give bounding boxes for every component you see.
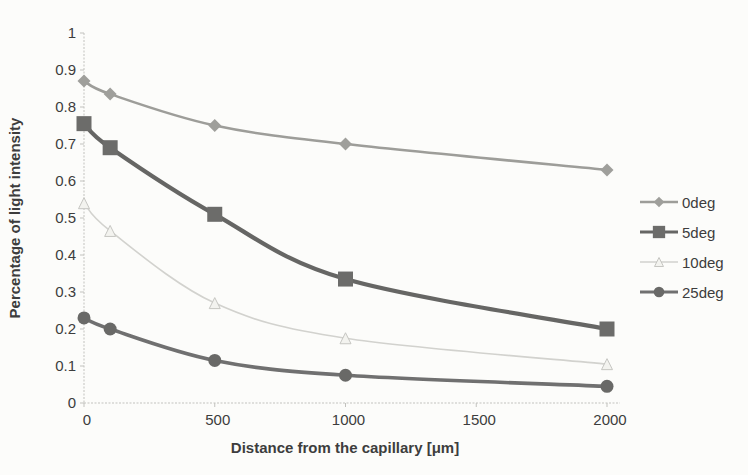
x-tick-label: 0 [83, 411, 91, 428]
square-marker [103, 140, 118, 155]
x-tick-label: 2000 [593, 411, 626, 428]
triangle-marker [79, 198, 90, 209]
legend-label: 5deg [682, 224, 715, 241]
plot-area: 00.10.20.30.40.50.60.70.80.9105001000150… [0, 0, 748, 475]
legend-item-5deg: 5deg [639, 217, 724, 247]
square-marker [207, 207, 222, 222]
x-tick-label: 1000 [332, 411, 365, 428]
legend-marker-triangle-icon [639, 253, 679, 271]
circle-marker [78, 311, 91, 324]
y-tick-label: 0.9 [55, 61, 76, 78]
diamond-marker [208, 119, 221, 132]
legend-item-10deg: 10deg [639, 247, 724, 277]
y-tick-label: 0.6 [55, 172, 76, 189]
legend-label: 10deg [682, 254, 724, 271]
legend-marker-circle-icon [639, 283, 679, 301]
legend-item-0deg: 0deg [639, 187, 724, 217]
diamond-marker [601, 163, 614, 176]
chart: 00.10.20.30.40.50.60.70.80.9105001000150… [0, 0, 748, 475]
circle-marker [601, 380, 614, 393]
y-tick-label: 0.4 [55, 246, 76, 263]
diamond-marker [104, 88, 117, 101]
legend-marker-diamond-icon [639, 193, 679, 211]
y-tick-label: 0.1 [55, 357, 76, 374]
legend-marker-square-icon [639, 223, 679, 241]
y-tick-label: 0.2 [55, 320, 76, 337]
y-tick-label: 1 [68, 24, 76, 41]
circle-marker [208, 354, 221, 367]
square-marker [338, 272, 353, 287]
legend-label: 25deg [682, 284, 724, 301]
diamond-marker [339, 138, 352, 151]
legend-item-25deg: 25deg [639, 277, 724, 307]
y-tick-label: 0 [68, 394, 76, 411]
x-tick-label: 500 [205, 411, 230, 428]
y-tick-label: 0.7 [55, 135, 76, 152]
x-axis-title: Distance from the capillary [μm] [0, 439, 690, 456]
y-axis-title: Percentage of light intensity [6, 118, 23, 319]
x-tick-label: 1500 [463, 411, 496, 428]
square-marker [77, 116, 92, 131]
square-marker [600, 322, 615, 337]
series-line-5deg [84, 124, 607, 329]
triangle-marker [209, 298, 220, 309]
legend-label: 0deg [682, 194, 715, 211]
circle-marker [339, 369, 352, 382]
circle-marker [104, 323, 117, 336]
legend: 0deg5deg10deg25deg [639, 187, 724, 307]
series-line-0deg [84, 81, 607, 170]
y-tick-label: 0.8 [55, 98, 76, 115]
y-tick-label: 0.3 [55, 283, 76, 300]
y-tick-label: 0.5 [55, 209, 76, 226]
